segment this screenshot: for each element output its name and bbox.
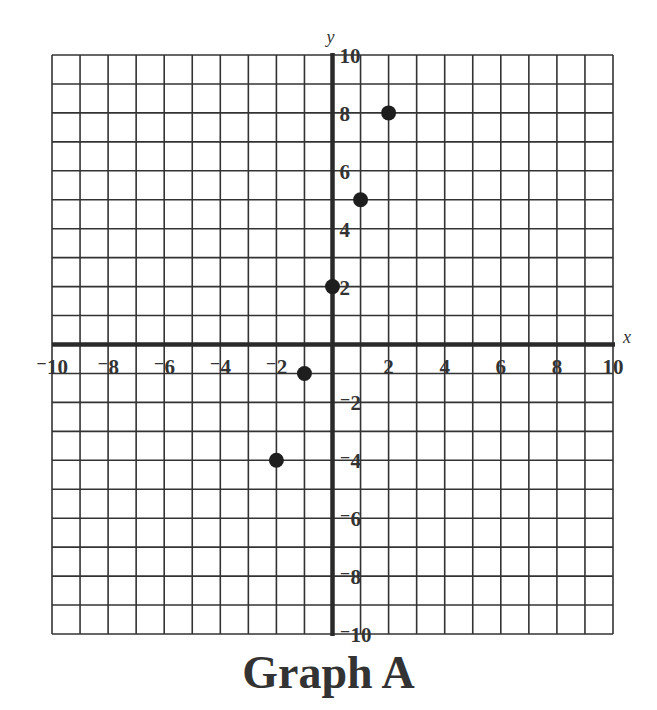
svg-text:⁻6: ⁻6 bbox=[340, 507, 362, 531]
svg-text:⁻2: ⁻2 bbox=[340, 391, 362, 415]
svg-text:⁻6: ⁻6 bbox=[153, 355, 175, 379]
svg-text:⁻2: ⁻2 bbox=[266, 355, 288, 379]
chart-title: Graph A bbox=[0, 646, 657, 699]
data-point bbox=[353, 192, 368, 207]
data-point bbox=[381, 105, 396, 120]
svg-text:2: 2 bbox=[383, 355, 394, 379]
svg-text:6: 6 bbox=[496, 355, 507, 379]
x-axis-label: x bbox=[622, 327, 631, 347]
svg-text:4: 4 bbox=[439, 355, 450, 379]
svg-text:4: 4 bbox=[340, 218, 351, 242]
svg-text:⁻8: ⁻8 bbox=[340, 565, 362, 589]
svg-text:6: 6 bbox=[340, 160, 351, 184]
svg-text:⁻8: ⁻8 bbox=[97, 355, 119, 379]
data-point bbox=[297, 366, 312, 381]
data-point bbox=[269, 453, 284, 468]
svg-text:8: 8 bbox=[552, 355, 563, 379]
coordinate-plane: ⁻10⁻8⁻6⁻4⁻2246810108642⁻2⁻4⁻6⁻8⁻10 x y bbox=[0, 0, 657, 645]
svg-text:10: 10 bbox=[340, 44, 361, 68]
svg-text:⁻4: ⁻4 bbox=[210, 355, 232, 379]
svg-text:⁻4: ⁻4 bbox=[340, 449, 362, 473]
svg-text:⁻10: ⁻10 bbox=[36, 355, 68, 379]
svg-text:2: 2 bbox=[340, 276, 351, 300]
svg-text:8: 8 bbox=[340, 102, 351, 126]
data-point bbox=[325, 279, 340, 294]
svg-text:⁻10: ⁻10 bbox=[340, 623, 372, 645]
svg-text:10: 10 bbox=[603, 355, 624, 379]
y-axis-label: y bbox=[325, 27, 335, 47]
